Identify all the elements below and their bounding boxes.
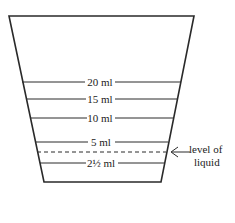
left-arrow-icon — [171, 147, 190, 157]
graduation-label: 5 ml — [91, 136, 111, 148]
graduation-2-5ml: 2½ ml — [40, 157, 164, 169]
graduation-label: 10 ml — [87, 112, 112, 124]
graduation-label: 20 ml — [87, 76, 112, 88]
graduation-label: 15 ml — [87, 93, 112, 105]
liquid-level-annotation-line1: level of — [189, 143, 223, 155]
graduation-20ml: 20 ml — [22, 76, 181, 88]
graduation-5ml: 5 ml — [35, 136, 168, 148]
graduation-15ml: 15 ml — [26, 93, 177, 105]
liquid-level-annotation-line2: liquid — [194, 156, 220, 168]
measuring-cup-diagram: 20 ml 15 ml 10 ml 5 ml 2½ ml level of li… — [0, 0, 235, 223]
graduation-label: 2½ ml — [87, 157, 115, 169]
graduation-10ml: 10 ml — [30, 112, 173, 124]
